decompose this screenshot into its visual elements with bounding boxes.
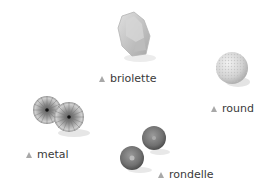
triangle-marker-icon	[158, 172, 164, 178]
briolette-bead-image	[114, 10, 158, 64]
triangle-marker-icon	[99, 76, 105, 82]
rondelle-beads-image	[118, 124, 172, 174]
metal-label: metal	[26, 149, 69, 160]
round-label-text: round	[222, 103, 254, 114]
round-bead-image	[212, 50, 254, 90]
rondelle-label-text: rondelle	[169, 169, 214, 180]
briolette-label-text: briolette	[110, 73, 157, 84]
metal-label-text: metal	[37, 149, 69, 160]
triangle-marker-icon	[26, 152, 32, 158]
metal-beads-image	[30, 93, 92, 139]
briolette-label: briolette	[99, 73, 157, 84]
triangle-marker-icon	[211, 106, 217, 112]
round-label: round	[211, 103, 254, 114]
rondelle-label: rondelle	[158, 169, 214, 180]
